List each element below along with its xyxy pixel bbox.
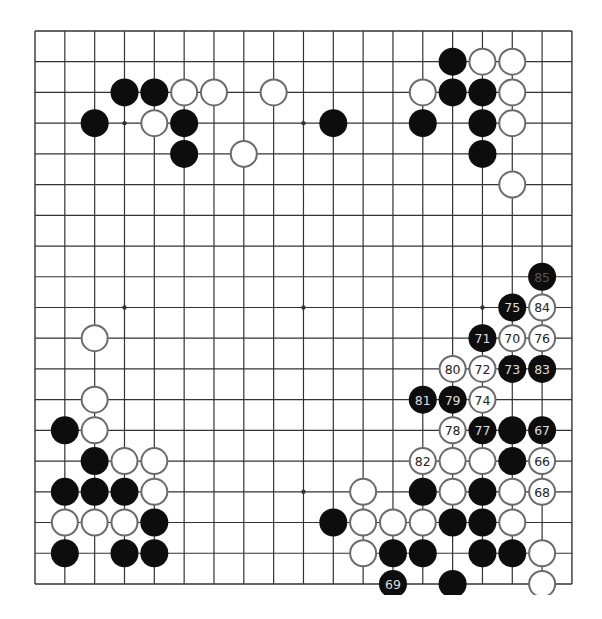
white-stone-icon — [499, 79, 525, 105]
white-stone-icon — [52, 510, 78, 536]
black-stone — [439, 48, 467, 76]
black-stone-icon — [110, 78, 138, 106]
white-stone-icon — [171, 79, 197, 105]
black-stone: 71 — [468, 324, 496, 352]
white-stone — [82, 510, 108, 536]
black-stone — [140, 539, 168, 567]
white-stone-icon — [82, 325, 108, 351]
black-stone-icon — [140, 509, 168, 537]
black-stone-icon — [51, 539, 79, 567]
white-stone — [82, 325, 108, 351]
white-stone — [499, 479, 525, 505]
white-stone — [410, 79, 436, 105]
black-stone-icon — [319, 509, 347, 537]
white-stone — [469, 49, 495, 75]
black-stone-icon — [140, 539, 168, 567]
black-stone — [379, 539, 407, 567]
white-stone-icon — [499, 479, 525, 505]
white-stone-icon — [529, 540, 555, 566]
move-number-label: 85 — [534, 270, 550, 285]
white-stone — [529, 571, 555, 597]
black-stone-icon — [110, 539, 138, 567]
black-stone-icon — [170, 109, 198, 137]
white-stone — [410, 510, 436, 536]
white-stone — [261, 79, 287, 105]
white-stone-icon — [141, 110, 167, 136]
black-stone — [170, 109, 198, 137]
white-stone-icon — [82, 417, 108, 443]
go-board[interactable]: 8575847170768072738381797478776782666869 — [0, 0, 602, 619]
white-stone — [171, 79, 197, 105]
black-stone — [468, 109, 496, 137]
star-point-icon — [480, 305, 484, 309]
black-stone — [439, 509, 467, 537]
black-stone — [409, 478, 437, 506]
white-stone — [111, 448, 137, 474]
black-stone — [498, 539, 526, 567]
move-number-label: 77 — [474, 423, 490, 438]
black-stone-icon — [498, 539, 526, 567]
move-number-label: 82 — [415, 454, 431, 469]
black-stone: 79 — [439, 386, 467, 414]
black-stone — [51, 478, 79, 506]
white-stone-icon — [201, 79, 227, 105]
white-stone — [499, 510, 525, 536]
white-stone-icon — [82, 510, 108, 536]
white-stone — [499, 49, 525, 75]
black-stone — [439, 570, 467, 598]
black-stone-icon — [439, 570, 467, 598]
black-stone — [110, 78, 138, 106]
black-stone — [409, 539, 437, 567]
white-stone — [350, 479, 376, 505]
black-stone — [319, 109, 347, 137]
black-stone-icon — [379, 539, 407, 567]
star-point-icon — [301, 121, 305, 125]
white-stone-icon — [231, 141, 257, 167]
black-stone — [468, 140, 496, 168]
white-stone: 82 — [410, 448, 436, 474]
black-stone-icon — [439, 48, 467, 76]
move-number-label: 78 — [445, 423, 461, 438]
white-stone-icon — [499, 172, 525, 198]
white-stone: 70 — [499, 325, 525, 351]
black-stone — [140, 509, 168, 537]
white-stone — [350, 540, 376, 566]
move-number-label: 75 — [504, 300, 520, 315]
black-stone: 85 — [528, 263, 556, 291]
white-stone-icon — [261, 79, 287, 105]
white-stone — [529, 540, 555, 566]
white-stone: 78 — [440, 417, 466, 443]
move-number-label: 80 — [445, 362, 461, 377]
white-stone: 66 — [529, 448, 555, 474]
black-stone: 77 — [468, 416, 496, 444]
star-point-icon — [301, 305, 305, 309]
black-stone-icon — [468, 140, 496, 168]
go-board-canvas[interactable]: 8575847170768072738381797478776782666869 — [0, 0, 602, 619]
black-stone-icon — [439, 509, 467, 537]
black-stone — [81, 478, 109, 506]
black-stone — [468, 539, 496, 567]
white-stone: 72 — [469, 356, 495, 382]
move-number-label: 84 — [534, 300, 550, 315]
white-stone-icon — [82, 387, 108, 413]
black-stone — [409, 109, 437, 137]
black-stone-icon — [498, 447, 526, 475]
black-stone — [498, 447, 526, 475]
move-number-label: 83 — [534, 362, 550, 377]
black-stone-icon — [468, 509, 496, 537]
black-stone — [51, 416, 79, 444]
black-stone — [81, 109, 109, 137]
black-stone: 69 — [379, 570, 407, 598]
black-stone-icon — [170, 140, 198, 168]
black-stone — [468, 509, 496, 537]
black-stone-icon — [409, 109, 437, 137]
black-stone — [110, 539, 138, 567]
move-number-label: 70 — [504, 331, 520, 346]
white-stone: 68 — [529, 479, 555, 505]
move-number-label: 68 — [534, 485, 550, 500]
black-stone — [498, 416, 526, 444]
black-stone: 81 — [409, 386, 437, 414]
white-stone-icon — [469, 448, 495, 474]
white-stone — [499, 79, 525, 105]
black-stone — [51, 539, 79, 567]
